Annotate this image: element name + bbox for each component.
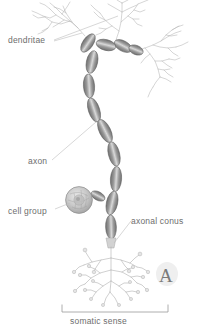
leader-axonal-conus [114,221,131,243]
label-cell-group: cell group [8,206,47,216]
cell-body [66,187,93,214]
terminal-arbor [75,247,147,304]
dendritic-tree-right [137,25,188,97]
label-somatic-sense: somatic sense [0,316,197,326]
neuron-figure: dendritae axon cell group axonal conus A… [0,0,197,335]
label-axon: axon [28,156,47,166]
label-dendritae: dendritae [8,35,45,45]
scale-bracket [62,305,168,312]
panel-letter: A [159,265,173,287]
axonal-conus [106,238,116,248]
dendritic-tree-left [32,2,85,36]
leader-axon [52,122,96,160]
label-axonal-conus: axonal conus [131,216,184,226]
leader-dendritae-left [54,33,82,41]
dendritic-tree-top [91,0,148,40]
